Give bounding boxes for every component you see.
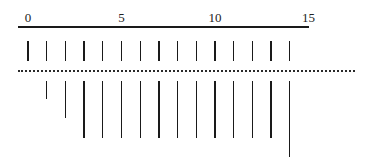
bottom-tick: [121, 81, 122, 138]
top-tick: [27, 41, 28, 61]
top-tick: [83, 41, 84, 61]
bottom-tick: [289, 81, 290, 157]
ruler-diagram: 051015: [0, 0, 368, 168]
top-tick: [252, 41, 253, 61]
top-tick: [65, 41, 66, 61]
bottom-tick: [270, 81, 271, 138]
bottom-tick: [214, 81, 215, 138]
scale-label: 5: [118, 11, 125, 24]
bottom-tick: [83, 81, 84, 138]
top-tick: [270, 41, 271, 61]
bottom-tick: [158, 81, 159, 138]
bottom-tick: [102, 81, 103, 138]
scale-label: 0: [25, 11, 32, 24]
bottom-tick: [233, 81, 234, 138]
top-tick: [102, 41, 103, 61]
scale-label: 10: [209, 11, 222, 24]
bottom-tick: [65, 81, 66, 118]
top-tick: [177, 41, 178, 61]
top-tick: [289, 41, 290, 61]
top-tick: [46, 41, 47, 61]
top-tick: [233, 41, 234, 61]
bottom-tick: [196, 81, 197, 138]
scale-label: 15: [302, 11, 315, 24]
top-tick: [140, 41, 141, 61]
bottom-tick: [252, 81, 253, 138]
dotted-baseline: [18, 70, 355, 72]
top-tick: [158, 41, 159, 61]
top-tick: [121, 41, 122, 61]
top-tick: [214, 41, 215, 61]
bottom-tick: [140, 81, 141, 138]
bottom-tick: [177, 81, 178, 138]
bottom-tick: [46, 81, 47, 99]
top-scale-line: [18, 26, 309, 28]
top-tick: [196, 41, 197, 61]
